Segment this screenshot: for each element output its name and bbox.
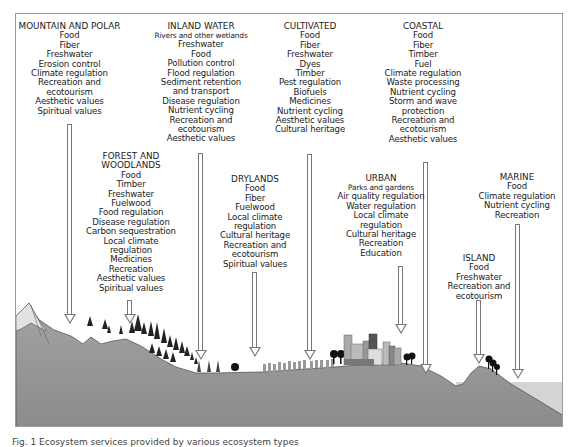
service-item: Recreation [469,211,563,220]
arrow-down-icon [396,266,406,334]
ecosystem-marine: MARINE Food Climate regulation Nutrient … [469,173,563,220]
figure-caption: Fig. 1 Ecosystem services provided by va… [12,437,299,447]
arrow-down-icon [65,124,75,324]
service-item: Spiritual values [81,284,181,293]
arrow-down-icon [474,300,484,364]
coastal-trees [404,353,416,366]
arrow-down-icon [513,224,523,379]
ecosystem-title: URBAN [336,174,426,183]
service-item: Aesthetic values [139,134,263,143]
arrow-down-icon [125,300,135,324]
ecosystem-mountain-polar: MOUNTAIN AND POLAR Food Fiber Freshwater… [15,22,126,116]
ecosystem-island: ISLAND Food Freshwater Recreation and ec… [438,254,520,301]
ecosystem-drylands: DRYLANDS Food Fiber Fuelwood Local clima… [210,175,300,269]
arrow-down-icon [250,272,260,357]
ecosystem-title: INLAND WATER [139,22,263,31]
service-item: Education [336,249,426,258]
service-item: Spiritual values [15,107,126,116]
diagram-frame: MOUNTAIN AND POLAR Food Fiber Freshwater… [15,13,563,427]
riverside-trees [197,360,239,372]
ecosystem-cultivated: CULTIVATED Food Fiber Freshwater Dyes Ti… [260,22,360,135]
ecosystem-forest-woodlands: FOREST AND WOODLANDS Food Timber Freshwa… [81,152,181,293]
ecosystem-inland-water: INLAND WATER Rivers and other wetlands F… [139,22,263,144]
ecosystem-urban: URBAN Parks and gardens Air quality regu… [336,174,426,258]
city-buildings [330,334,401,365]
arrow-down-icon [196,153,206,360]
service-item: Spiritual values [210,260,300,269]
service-item: Cultural heritage [260,125,360,134]
ecosystem-coastal: COASTAL Food Fiber Timber Fuel Climate r… [368,22,478,144]
service-item: Aesthetic values [368,135,478,144]
arrow-down-icon [305,154,315,360]
